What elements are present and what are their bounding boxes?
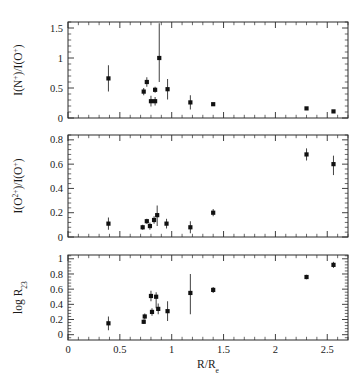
data-point bbox=[153, 88, 157, 92]
data-point bbox=[165, 309, 169, 313]
data-point bbox=[304, 152, 308, 156]
data-points-top bbox=[106, 23, 335, 113]
data-point bbox=[331, 263, 335, 267]
ytick-label-middle: 0 bbox=[58, 232, 63, 243]
data-point bbox=[331, 162, 335, 166]
data-point bbox=[106, 222, 110, 226]
data-point bbox=[145, 80, 149, 84]
data-points-bottom bbox=[106, 262, 335, 330]
data-point bbox=[142, 90, 146, 94]
data-point bbox=[157, 56, 161, 60]
data-point bbox=[142, 320, 146, 324]
ytick-label-bottom: 0.2 bbox=[50, 314, 63, 325]
ytick-label-top: 0.5 bbox=[50, 83, 63, 94]
figure-container: 00.511.5I(N+)/I(O+)00.20.40.60.8I(O2+)/I… bbox=[0, 0, 355, 389]
ylabel-middle: I(O2+)/I(O+) bbox=[11, 158, 26, 213]
data-point bbox=[304, 106, 308, 110]
data-point bbox=[150, 310, 154, 314]
ytick-label-top: 1 bbox=[58, 53, 63, 64]
ylabel-bottom: log R23 bbox=[12, 281, 29, 314]
ytick-label-top: 1.5 bbox=[50, 23, 63, 34]
ytick-label-top: 0 bbox=[58, 113, 63, 124]
panel-middle: 00.20.40.60.8I(O2+)/I(O+) bbox=[11, 134, 349, 242]
ytick-label-bottom: 0.8 bbox=[50, 269, 63, 280]
ytick-label-bottom: 0 bbox=[58, 329, 63, 340]
data-point bbox=[156, 307, 160, 311]
data-point bbox=[143, 314, 147, 318]
xtick-label: 1.5 bbox=[217, 344, 230, 355]
ytick-label-middle: 0.4 bbox=[50, 183, 64, 194]
data-point bbox=[153, 99, 157, 103]
data-point bbox=[188, 291, 192, 295]
data-point bbox=[304, 275, 308, 279]
plot-frame-top bbox=[68, 22, 348, 118]
data-point bbox=[164, 222, 168, 226]
ytick-label-middle: 0.8 bbox=[50, 134, 63, 145]
data-point bbox=[331, 109, 335, 113]
ytick-label-bottom: 1 bbox=[58, 253, 63, 264]
data-point bbox=[149, 294, 153, 298]
data-point bbox=[211, 102, 215, 106]
data-point bbox=[141, 225, 145, 229]
xtick-label: 1 bbox=[169, 344, 174, 355]
ytick-label-middle: 0.2 bbox=[50, 207, 63, 218]
xtick-label: 2 bbox=[273, 344, 278, 355]
scatter-figure: 00.511.5I(N+)/I(O+)00.20.40.60.8I(O2+)/I… bbox=[0, 0, 355, 389]
xtick-label: 0.5 bbox=[113, 344, 126, 355]
data-point bbox=[145, 219, 149, 223]
panel-bottom: 00.20.40.60.81log R2300.511.522.5R/Re bbox=[12, 253, 348, 374]
data-point bbox=[152, 218, 156, 222]
data-point bbox=[155, 213, 159, 217]
data-point bbox=[154, 295, 158, 299]
data-point bbox=[165, 87, 169, 91]
xtick-label: 2.5 bbox=[321, 344, 334, 355]
ylabel-top: I(N+)/I(O+) bbox=[11, 44, 26, 95]
data-point bbox=[106, 321, 110, 325]
ytick-label-middle: 0.6 bbox=[50, 159, 63, 170]
data-point bbox=[106, 76, 110, 80]
data-point bbox=[188, 225, 192, 229]
data-point bbox=[211, 211, 215, 215]
plot-frame-bottom bbox=[68, 255, 348, 340]
xtick-label: 0 bbox=[65, 344, 70, 355]
ytick-label-bottom: 0.6 bbox=[50, 284, 63, 295]
ytick-label-bottom: 0.4 bbox=[50, 299, 64, 310]
data-point bbox=[148, 224, 152, 228]
data-point bbox=[188, 100, 192, 104]
data-point bbox=[149, 99, 153, 103]
data-points-middle bbox=[106, 148, 335, 233]
data-point bbox=[211, 288, 215, 292]
panel-top: 00.511.5I(N+)/I(O+) bbox=[11, 22, 349, 124]
xlabel: R/Re bbox=[197, 358, 220, 375]
